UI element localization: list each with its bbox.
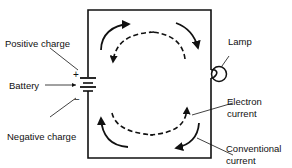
label-conventional-current-line1: Conventional <box>226 143 281 154</box>
electron-current-arrows <box>112 32 187 135</box>
label-conventional-current-line2: current <box>226 155 256 166</box>
label-negative-charge: Negative charge <box>7 131 76 142</box>
plus-sign: + <box>73 69 79 80</box>
battery-leader-arrowhead <box>72 83 76 87</box>
label-lamp: Lamp <box>228 36 252 47</box>
label-electron-current-line1: Electron <box>227 96 262 107</box>
label-positive-charge: Positive charge <box>5 38 70 49</box>
label-battery: Battery <box>9 80 39 91</box>
battery-icon <box>80 78 96 91</box>
minus-sign: − <box>74 94 80 105</box>
conventional-current-arrows <box>101 23 199 148</box>
lamp-icon <box>211 67 227 82</box>
label-electron-current-line2: current <box>227 108 257 119</box>
